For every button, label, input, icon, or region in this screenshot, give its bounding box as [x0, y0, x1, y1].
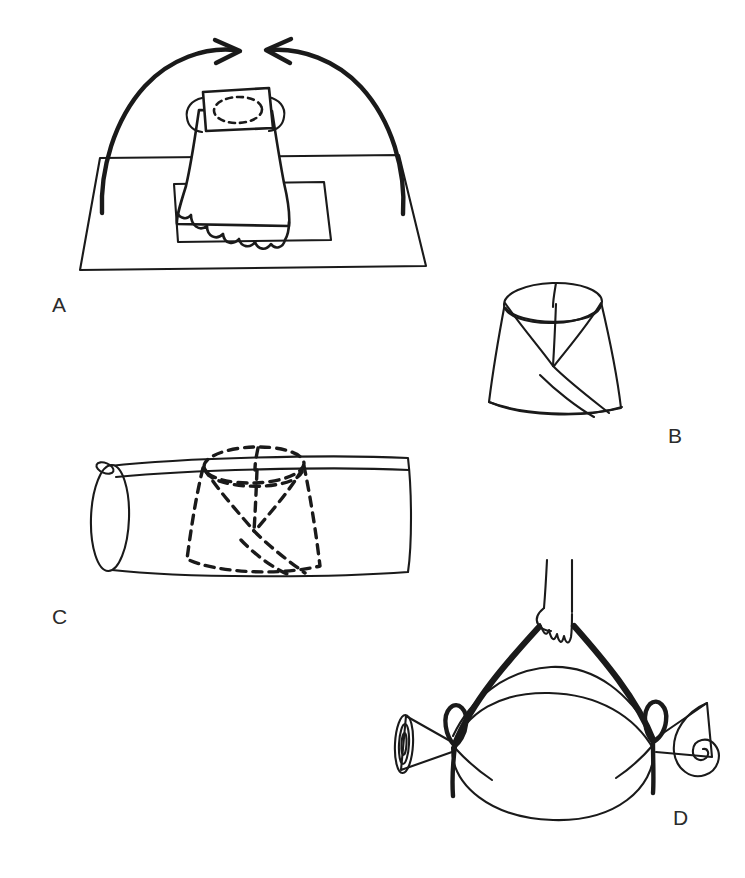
lower-fabric-curve [452, 693, 654, 750]
upper-fabric-curve [453, 667, 651, 736]
panel-c-group: C [52, 445, 411, 628]
figure-root: A B [0, 0, 745, 878]
hand-fingers [540, 614, 572, 643]
panel-label-b: B [668, 424, 683, 447]
figure-canvas: A B [0, 0, 745, 878]
panel-b-group: B [489, 281, 683, 447]
panel-label-c: C [52, 605, 68, 628]
right-knot-tail-2 [616, 745, 653, 778]
left-knot-tail-2 [455, 748, 492, 780]
panel-label-a: A [52, 293, 67, 316]
panel-d-group: D [393, 560, 718, 829]
left-knot-tail-1 [453, 746, 455, 796]
panel-label-d: D [673, 806, 689, 829]
forearm-left-line [544, 560, 547, 608]
panel-a-group: A [52, 39, 426, 316]
right-heavy-strap [574, 626, 653, 740]
bottom-pouch-curve [452, 748, 654, 820]
right-rolled-spiral-end [674, 703, 719, 776]
